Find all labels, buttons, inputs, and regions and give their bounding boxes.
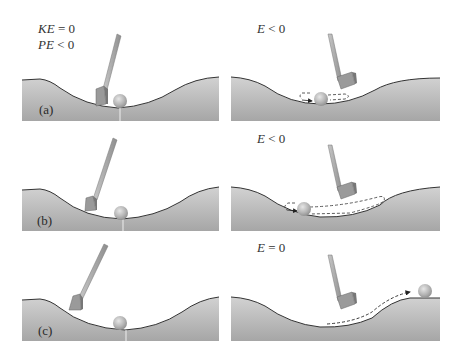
equation-pe-left-a: PE < 0 [38, 37, 74, 53]
equation-ke-left-a: KE KE = 0= 0 [38, 21, 75, 37]
ground-right-b [231, 187, 440, 231]
ball-right-a [314, 92, 328, 106]
club-right-c [328, 255, 357, 309]
ball-left-a [113, 94, 127, 108]
club-right-b [328, 145, 357, 199]
panel-label-a: (a) [39, 102, 53, 118]
ground-right-c [231, 297, 440, 341]
club-right-a [328, 34, 357, 89]
equation-energy-right-c: E = 0 [257, 240, 285, 256]
figure-canvas [0, 0, 462, 357]
ball-left-b [114, 206, 128, 220]
club-left-c [69, 244, 108, 310]
panel-label-c: (c) [38, 323, 52, 339]
ball-right-c [418, 284, 432, 298]
ground-right-a [231, 77, 440, 121]
ball-right-b [297, 202, 311, 216]
ball-left-c [113, 316, 127, 330]
equation-energy-right-b: E < 0 [257, 131, 285, 147]
equation-energy-right-a: E < 0 [257, 21, 285, 37]
club-left-b [85, 138, 117, 211]
panel-label-b: (b) [37, 213, 52, 229]
